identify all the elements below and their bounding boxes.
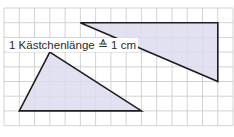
scale-caption: 1 Kästchenlänge ≙ 1 cm [7,38,138,52]
grid-diagram [0,0,234,137]
